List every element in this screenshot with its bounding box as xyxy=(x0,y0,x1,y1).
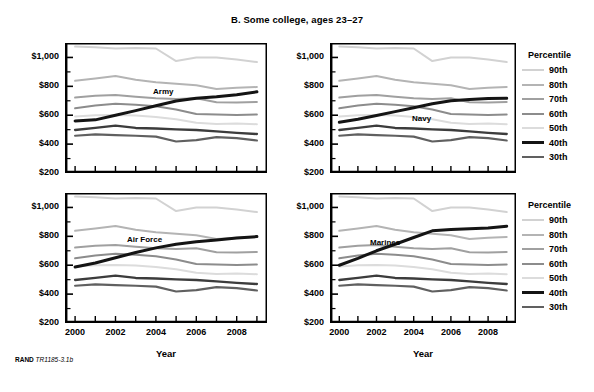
legend-swatch-90th xyxy=(522,69,544,71)
series-line-90th xyxy=(75,197,257,212)
legend-swatch-50th xyxy=(522,277,544,279)
x-tick-label: 2000 xyxy=(319,327,359,337)
source-note: RAND TR1185-3.1b xyxy=(15,356,73,363)
series-line-mid-dark xyxy=(75,126,257,134)
series-line-50th xyxy=(75,265,257,274)
plot-area-army xyxy=(65,43,267,173)
figure-root: B. Some college, ages 23–27 ArmyNavyAir … xyxy=(0,0,594,392)
y-tick-label: $1,000 xyxy=(274,51,324,61)
series-line-80th xyxy=(339,76,506,89)
legend-label-90th: 90th xyxy=(549,215,568,225)
legend-label-30th: 30th xyxy=(549,302,568,312)
panel-label-army: Army xyxy=(153,87,173,96)
panel-army: Army xyxy=(65,43,267,173)
legend-item-40th: 40th xyxy=(522,286,594,301)
y-tick-label: $800 xyxy=(274,80,324,90)
y-tick-label: $400 xyxy=(9,288,59,298)
y-tick-label: $800 xyxy=(9,80,59,90)
legend-label-40th: 40th xyxy=(549,288,568,298)
legend-swatch-90th xyxy=(522,219,544,221)
x-tick-label: 2006 xyxy=(176,327,216,337)
series-line-70th xyxy=(339,245,506,253)
legend-label-50th: 50th xyxy=(549,273,568,283)
x-tick-label: 2008 xyxy=(217,327,257,337)
legend-label-60th: 60th xyxy=(549,259,568,269)
y-tick-label: $400 xyxy=(274,138,324,148)
x-tick-label: 2004 xyxy=(394,327,434,337)
series-line-mid-dark xyxy=(339,126,506,134)
legend-item-90th: 90th xyxy=(522,213,594,228)
x-tick-label: 2002 xyxy=(357,327,397,337)
legend-label-80th: 80th xyxy=(549,230,568,240)
series-line-30th xyxy=(339,284,506,291)
x-axis-title-right: Year xyxy=(330,348,516,359)
legend-item-60th: 60th xyxy=(522,107,594,122)
y-tick-label: $600 xyxy=(274,259,324,269)
plot-area-marines xyxy=(330,193,516,323)
panel-label-navy: Navy xyxy=(412,114,431,123)
x-tick-label: 2000 xyxy=(55,327,95,337)
legend-swatch-70th xyxy=(522,98,544,100)
series-line-90th xyxy=(75,47,257,62)
series-line-60th xyxy=(75,104,257,115)
series-line-30th xyxy=(339,134,506,141)
y-tick-label: $200 xyxy=(274,317,324,327)
legend-label-70th: 70th xyxy=(549,244,568,254)
legend-swatch-50th xyxy=(522,127,544,129)
y-tick-label: $800 xyxy=(9,230,59,240)
panel-airforce: Air Force xyxy=(65,193,267,323)
legend-item-70th: 70th xyxy=(522,92,594,107)
x-tick-label: 2002 xyxy=(96,327,136,337)
panel-label-airforce: Air Force xyxy=(127,235,162,244)
legend-label-70th: 70th xyxy=(549,94,568,104)
series-line-mid-dark xyxy=(339,276,506,284)
legend-bottom: Percentile90th80th70th60th50th40th30th xyxy=(522,200,594,315)
legend-swatch-80th xyxy=(522,84,544,86)
plot-area-airforce xyxy=(65,193,267,323)
series-line-50th xyxy=(339,265,506,274)
legend-item-80th: 80th xyxy=(522,228,594,243)
legend-item-80th: 80th xyxy=(522,78,594,93)
legend-swatch-30th xyxy=(522,306,544,308)
y-tick-label: $600 xyxy=(9,259,59,269)
y-tick-label: $1,000 xyxy=(9,201,59,211)
legend-swatch-40th xyxy=(522,291,544,294)
y-tick-label: $200 xyxy=(274,167,324,177)
panel-label-marines: Marines xyxy=(370,238,400,247)
legend-item-30th: 30th xyxy=(522,150,594,165)
x-axis-title-left: Year xyxy=(65,348,267,359)
legend-item-60th: 60th xyxy=(522,257,594,272)
x-tick-label: 2006 xyxy=(431,327,471,337)
y-tick-label: $1,000 xyxy=(9,51,59,61)
series-line-90th xyxy=(339,47,506,62)
series-line-80th xyxy=(75,226,257,239)
legend-label-80th: 80th xyxy=(549,80,568,90)
series-line-mid-dark xyxy=(75,276,257,284)
legend-swatch-80th xyxy=(522,234,544,236)
legend-item-90th: 90th xyxy=(522,63,594,78)
y-tick-label: $400 xyxy=(274,288,324,298)
legend-title: Percentile xyxy=(528,200,594,210)
source-note-brand: RAND xyxy=(15,356,34,363)
legend-item-50th: 50th xyxy=(522,121,594,136)
legend-swatch-60th xyxy=(522,263,544,265)
legend-swatch-30th xyxy=(522,156,544,158)
y-tick-label: $600 xyxy=(274,109,324,119)
legend-swatch-40th xyxy=(522,141,544,144)
legend-item-40th: 40th xyxy=(522,136,594,151)
legend-item-50th: 50th xyxy=(522,271,594,286)
legend-label-40th: 40th xyxy=(549,138,568,148)
series-line-30th xyxy=(75,134,257,141)
y-tick-label: $200 xyxy=(9,167,59,177)
series-line-30th xyxy=(75,284,257,291)
panel-marines: Marines xyxy=(330,193,516,323)
x-tick-label: 2004 xyxy=(136,327,176,337)
y-tick-label: $400 xyxy=(9,138,59,148)
source-note-id: TR1185-3.1b xyxy=(36,356,73,363)
legend-title: Percentile xyxy=(528,50,594,60)
legend-label-60th: 60th xyxy=(549,109,568,119)
y-tick-label: $1,000 xyxy=(274,201,324,211)
legend-item-70th: 70th xyxy=(522,242,594,257)
series-line-60th xyxy=(75,254,257,265)
legend-label-90th: 90th xyxy=(549,65,568,75)
